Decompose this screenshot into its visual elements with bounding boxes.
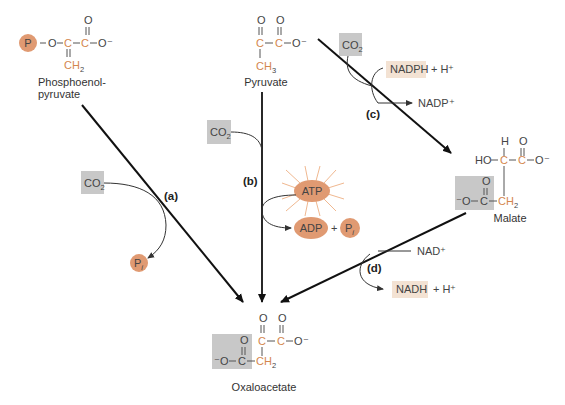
svg-text:NADP⁺: NADP⁺	[418, 97, 455, 109]
svg-text:O⁻: O⁻	[294, 335, 309, 347]
svg-text:O: O	[240, 334, 249, 346]
svg-text:O: O	[482, 175, 491, 187]
malate-label: Malate	[493, 212, 526, 224]
svg-text:O⁻: O⁻	[292, 37, 307, 49]
svg-text:C: C	[277, 335, 285, 347]
svg-text:C: C	[480, 195, 488, 207]
malate-structure: H O HO C C O⁻ O ⁻O C CH2 Malate	[455, 135, 550, 224]
svg-text:C: C	[256, 37, 264, 49]
arrow-pyruvate-to-malate	[318, 39, 451, 153]
svg-text:⁻O: ⁻O	[456, 195, 471, 207]
svg-text:NADPH: NADPH	[390, 63, 429, 75]
reaction-label-d: (d)	[367, 262, 382, 274]
oxaloacetate-structure: O O C C O⁻ O ⁻O C CH2 Oxaloacetate	[212, 312, 309, 393]
oxaloacetate-label: Oxaloacetate	[232, 381, 297, 393]
svg-text:C: C	[64, 37, 72, 49]
pep-label-line2: pyruvate	[38, 88, 80, 100]
svg-text:CH2: CH2	[256, 355, 276, 370]
pyruvate-label: Pyruvate	[244, 76, 287, 88]
svg-text:C: C	[500, 154, 508, 166]
svg-text:O: O	[257, 14, 266, 26]
reaction-label-c: (c)	[366, 108, 380, 120]
svg-text:O: O	[278, 312, 287, 324]
svg-text:HO: HO	[475, 154, 492, 166]
svg-text:O: O	[84, 14, 93, 26]
reaction-b: CO2 (b) ATP ADP + Pi	[207, 120, 360, 239]
svg-text:C: C	[518, 154, 526, 166]
svg-text:O⁻: O⁻	[98, 37, 113, 49]
svg-text:O: O	[276, 14, 285, 26]
svg-text:C: C	[275, 37, 283, 49]
svg-text:+: +	[331, 222, 337, 234]
reaction-label-a: (a)	[164, 190, 178, 202]
svg-text:C: C	[238, 355, 246, 367]
svg-text:CH2: CH2	[498, 195, 518, 210]
reaction-d: NAD⁺ (d) NADH + H⁺	[360, 245, 456, 298]
svg-text:ATP: ATP	[302, 185, 323, 197]
phosphoenolpyruvate-structure: P O C C O⁻ O CH2 Phosphoenol- pyruvate	[19, 14, 113, 100]
svg-text:C: C	[81, 37, 89, 49]
reaction-label-b: (b)	[243, 175, 258, 187]
svg-text:CH3: CH3	[256, 60, 276, 75]
svg-text:NAD⁺: NAD⁺	[417, 245, 446, 257]
svg-text:⁻O: ⁻O	[214, 355, 229, 367]
pep-label-line1: Phosphoenol-	[38, 76, 106, 88]
svg-text:P: P	[24, 37, 31, 49]
svg-text:C: C	[258, 335, 266, 347]
reaction-a: CO2 (a) Pi	[81, 171, 178, 272]
svg-text:+ H⁺: + H⁺	[431, 63, 454, 75]
svg-text:H: H	[501, 135, 509, 147]
svg-text:CH2: CH2	[64, 59, 84, 74]
oxaloacetate-pathways-diagram: P O C C O⁻ O CH2 Phosphoenol- pyruvate O…	[0, 0, 565, 405]
svg-text:NADH: NADH	[396, 283, 427, 295]
svg-text:O⁻: O⁻	[535, 154, 550, 166]
svg-text:ADP: ADP	[300, 222, 323, 234]
svg-text:+ H⁺: + H⁺	[433, 283, 456, 295]
svg-text:O: O	[259, 312, 268, 324]
pyruvate-structure: O O C C O⁻ CH3 Pyruvate	[244, 14, 306, 88]
svg-text:O: O	[519, 135, 528, 147]
svg-text:O: O	[48, 37, 57, 49]
